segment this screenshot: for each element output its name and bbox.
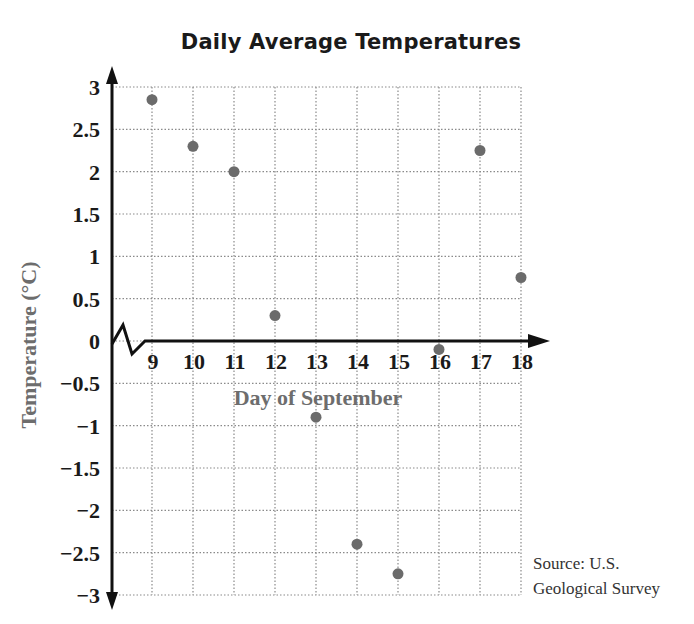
y-tick-label: −1 <box>76 414 100 439</box>
x-tick-label: 12 <box>265 349 287 374</box>
y-tick-label: 1.5 <box>73 202 101 227</box>
chart-plot: 32.521.510.50−0.5−1−1.5−2−2.5−3 91011121… <box>0 0 694 624</box>
data-point <box>393 568 404 579</box>
x-tick-labels: 9101112131415161718 <box>148 349 534 374</box>
x-axis-label: Day of September <box>234 385 403 410</box>
data-point <box>270 310 281 321</box>
x-tick-label: 10 <box>183 349 205 374</box>
y-tick-label: 0.5 <box>73 287 101 312</box>
data-point <box>434 344 445 355</box>
y-tick-label: −2 <box>76 498 100 523</box>
data-point <box>311 412 322 423</box>
x-tick-label: 11 <box>225 349 246 374</box>
data-point <box>147 94 158 105</box>
y-tick-label: 3 <box>89 75 100 100</box>
x-tick-label: 18 <box>511 349 533 374</box>
data-points <box>147 94 527 579</box>
y-tick-label: 0 <box>89 329 100 354</box>
x-tick-label: 15 <box>388 349 410 374</box>
data-point <box>188 141 199 152</box>
x-axis-arrow-right-icon <box>528 334 550 348</box>
y-tick-label: 2.5 <box>73 117 101 142</box>
y-tick-label: 2 <box>89 160 100 185</box>
source-line-2: Geological Survey <box>533 579 660 598</box>
data-point <box>475 145 486 156</box>
y-tick-labels: 32.521.510.50−0.5−1−1.5−2−2.5−3 <box>60 75 100 608</box>
y-tick-label: −0.5 <box>60 371 100 396</box>
source-annotation: Source: U.S. Geological Survey <box>533 554 660 598</box>
y-tick-label: −1.5 <box>60 456 100 481</box>
y-tick-label: 1 <box>89 244 100 269</box>
data-point <box>352 539 363 550</box>
data-point <box>516 272 527 283</box>
source-line-1: Source: U.S. <box>533 554 619 573</box>
x-tick-label: 14 <box>347 349 369 374</box>
x-tick-label: 17 <box>470 349 492 374</box>
data-point <box>229 166 240 177</box>
y-axis-arrow-down-icon <box>106 592 118 610</box>
y-axis-label: Temperature (°C) <box>16 261 41 428</box>
y-axis-arrow-up-icon <box>106 66 118 84</box>
y-tick-label: −2.5 <box>60 541 100 566</box>
x-tick-label: 13 <box>306 349 328 374</box>
y-tick-label: −3 <box>76 583 100 608</box>
x-tick-label: 9 <box>148 349 159 374</box>
